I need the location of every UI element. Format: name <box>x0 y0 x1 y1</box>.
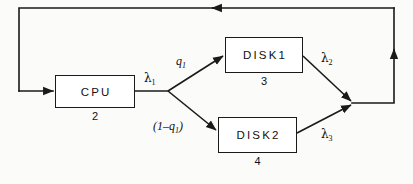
feedback-edge-right <box>352 8 394 103</box>
node-cpu-index: 2 <box>55 110 135 122</box>
q1-subscript: 1 <box>182 61 186 70</box>
node-disk1-label: DISK1 <box>241 49 287 61</box>
edge-label-lambda2: λ2 <box>321 52 333 64</box>
edge-label-lambda1: λ1 <box>144 72 156 84</box>
lambda-glyph: λ <box>321 51 329 65</box>
one-minus-q1-symbol: (1–q <box>153 119 175 133</box>
node-cpu-label: CPU <box>78 86 111 98</box>
flow-diagram: CPU 2 DISK1 3 DISK2 4 λ1 q1 (1–q1) λ2 λ3 <box>0 0 413 184</box>
node-disk2-label: DISK2 <box>234 129 280 141</box>
lambda3-subscript: 3 <box>329 134 333 143</box>
lambda-glyph: λ <box>321 127 329 141</box>
node-disk1-index: 3 <box>225 75 303 87</box>
edge-label-lambda3: λ3 <box>321 128 333 140</box>
lambda1-subscript: 1 <box>152 78 156 87</box>
node-disk1[interactable]: DISK1 <box>225 37 303 73</box>
lambda2-subscript: 2 <box>329 58 333 67</box>
lambda-glyph: λ <box>144 71 152 85</box>
node-disk2[interactable]: DISK2 <box>218 117 297 153</box>
one-minus-q1-subscript: 1 <box>175 126 179 135</box>
node-disk2-index: 4 <box>218 155 297 167</box>
edge-label-one-minus-q1: (1–q1) <box>153 120 183 132</box>
edge-label-q1: q1 <box>176 55 186 67</box>
one-minus-q1-suffix: ) <box>179 119 183 133</box>
node-cpu[interactable]: CPU <box>55 75 135 108</box>
